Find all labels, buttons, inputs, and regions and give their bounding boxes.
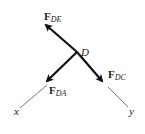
- force-label-da: FDA: [49, 84, 67, 98]
- y-axis-line: [108, 87, 128, 107]
- force-label-de: FDE: [44, 10, 62, 24]
- axis-label-x: x: [13, 105, 19, 117]
- axis-label-y: y: [128, 105, 134, 117]
- x-axis-line: [20, 85, 47, 108]
- free-body-diagram: FDE D FDC FDA x y: [0, 0, 145, 134]
- force-label-dc: FDC: [108, 68, 127, 82]
- force-arrow-da: [47, 52, 77, 81]
- joint-label-d: D: [80, 46, 89, 58]
- force-arrow-de: [46, 25, 77, 52]
